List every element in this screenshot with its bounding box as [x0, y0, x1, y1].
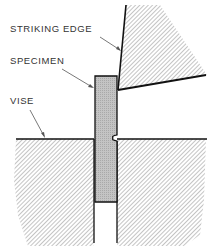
arrowhead-striking-edge	[116, 46, 121, 51]
specimen	[95, 76, 117, 202]
leader-specimen	[62, 69, 92, 87]
izod-test-diagram: STRIKING EDGE SPECIMEN VISE	[0, 0, 218, 246]
hammer	[118, 5, 207, 90]
label-vise: VISE	[10, 95, 34, 106]
label-striking-edge: STRIKING EDGE	[10, 23, 92, 34]
arrowhead-specimen	[88, 84, 94, 88]
specimen-notch	[113, 135, 118, 141]
vise-left-jaw	[14, 139, 94, 246]
arrowhead-vise	[41, 132, 45, 138]
label-specimen: SPECIMEN	[10, 55, 64, 66]
vise-right-jaw	[117, 139, 206, 246]
leader-vise	[30, 110, 44, 136]
